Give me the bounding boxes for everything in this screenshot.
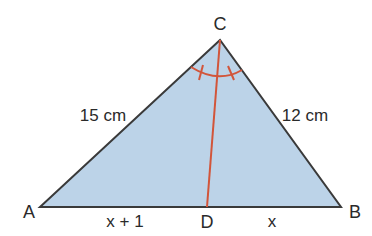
vertex-label-a: A xyxy=(23,202,35,222)
side-label-ad: x + 1 xyxy=(106,212,143,231)
side-label-ac: 15 cm xyxy=(80,106,126,125)
vertex-label-b: B xyxy=(349,202,361,222)
side-label-bc: 12 cm xyxy=(282,106,328,125)
vertex-label-c: C xyxy=(214,14,227,34)
vertex-label-d: D xyxy=(201,212,214,232)
triangle-diagram: C A B D 15 cm 12 cm x + 1 x xyxy=(0,0,372,236)
side-label-db: x xyxy=(268,212,277,231)
